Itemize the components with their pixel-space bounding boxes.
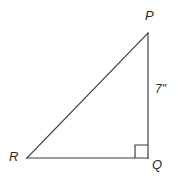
vertex-label-r: R (9, 150, 18, 163)
vertex-label-q: Q (152, 158, 162, 171)
right-angle-marker-icon (135, 145, 148, 158)
vertex-label-p: P (145, 9, 154, 22)
triangle-drawing (0, 0, 178, 181)
triangle-figure: P Q R 7" (0, 0, 178, 181)
side-length-label-pq: 7" (155, 83, 166, 95)
hypotenuse-RP-line (27, 33, 148, 158)
